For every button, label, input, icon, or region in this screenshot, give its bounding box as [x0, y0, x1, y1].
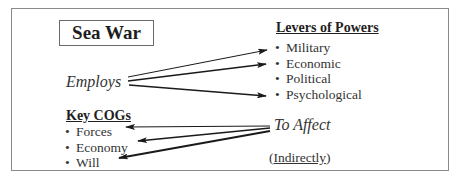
arrow-employs-psychological — [129, 85, 266, 96]
arrow-affect-forces — [126, 126, 270, 127]
arrows-layer — [0, 0, 457, 182]
